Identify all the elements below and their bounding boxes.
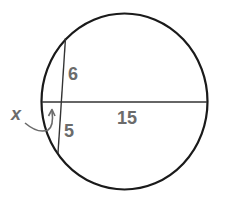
x-pointer-arrow xyxy=(25,111,53,131)
label-lower-segment: 5 xyxy=(64,121,74,141)
circle-chords-diagram: 6 5 15 x xyxy=(0,0,225,197)
label-right-segment: 15 xyxy=(117,108,137,128)
label-upper-segment: 6 xyxy=(68,64,78,84)
label-unknown-x: x xyxy=(10,104,22,124)
